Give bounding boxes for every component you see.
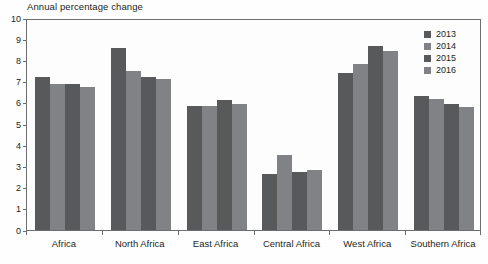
y-axis-tick-label: 7 xyxy=(16,78,23,87)
y-axis-tick-label: 5 xyxy=(16,120,23,129)
bar-west-africa-2014[interactable] xyxy=(353,64,368,230)
bar-group-bars xyxy=(103,20,179,230)
x-axis-label-west-africa: West Africa xyxy=(343,238,391,249)
legend-label-2016: 2016 xyxy=(436,66,456,75)
bar-group xyxy=(255,20,331,230)
bar-southern-africa-2015[interactable] xyxy=(444,104,459,230)
bar-southern-africa-2014[interactable] xyxy=(429,99,444,230)
legend-item-2015[interactable]: 2015 xyxy=(424,54,456,63)
legend-swatch-2016 xyxy=(424,67,431,74)
x-axis-label-north-africa: North Africa xyxy=(115,238,165,249)
bar-group xyxy=(179,20,255,230)
legend-item-2016[interactable]: 2016 xyxy=(424,66,456,75)
bar-southern-africa-2016[interactable] xyxy=(459,107,474,230)
bar-group-bars xyxy=(330,20,406,230)
bar-central-africa-2014[interactable] xyxy=(277,155,292,230)
x-axis-separator xyxy=(329,231,330,235)
bars-layer xyxy=(27,20,480,230)
x-axis-separator xyxy=(178,231,179,235)
legend-label-2015: 2015 xyxy=(436,54,456,63)
legend-item-2014[interactable]: 2014 xyxy=(424,42,456,51)
legend-label-2013: 2013 xyxy=(436,30,456,39)
bar-southern-africa-2013[interactable] xyxy=(414,96,429,230)
bar-central-africa-2013[interactable] xyxy=(262,174,277,230)
y-axis-tick-label: 0 xyxy=(16,226,23,235)
legend-label-2014: 2014 xyxy=(436,42,456,51)
x-axis-separator xyxy=(102,231,103,235)
bar-group-bars xyxy=(27,20,103,230)
bar-north-africa-2016[interactable] xyxy=(156,79,171,230)
bar-east-africa-2016[interactable] xyxy=(232,104,247,230)
bar-north-africa-2013[interactable] xyxy=(111,48,126,230)
plot-area xyxy=(26,19,481,231)
x-axis-label-southern-africa: Southern Africa xyxy=(411,238,476,249)
bar-east-africa-2013[interactable] xyxy=(187,106,202,230)
x-axis-separator xyxy=(405,231,406,235)
bar-group-bars xyxy=(255,20,331,230)
bar-north-africa-2015[interactable] xyxy=(141,77,156,230)
y-axis-tick-label: 9 xyxy=(16,35,23,44)
x-axis-label-central-africa: Central Africa xyxy=(263,238,320,249)
y-axis: 012345678910 xyxy=(0,19,26,231)
bar-north-africa-2014[interactable] xyxy=(126,71,141,230)
y-axis-tick-label: 4 xyxy=(16,141,23,150)
bar-africa-2013[interactable] xyxy=(35,77,50,230)
x-axis-label-africa: Africa xyxy=(52,238,76,249)
bar-central-africa-2016[interactable] xyxy=(307,170,322,230)
chart-container: Annual percentage change 012345678910 Af… xyxy=(0,0,488,264)
bar-central-africa-2015[interactable] xyxy=(292,172,307,230)
y-axis-tick-label: 2 xyxy=(16,184,23,193)
bar-group xyxy=(330,20,406,230)
x-axis-separator xyxy=(26,231,27,235)
bar-west-africa-2015[interactable] xyxy=(368,46,383,230)
bar-east-africa-2015[interactable] xyxy=(217,100,232,230)
bar-west-africa-2016[interactable] xyxy=(383,51,398,230)
bar-africa-2015[interactable] xyxy=(65,84,80,230)
y-axis-tick-label: 3 xyxy=(16,162,23,171)
bar-east-africa-2014[interactable] xyxy=(202,106,217,230)
y-axis-tick-label: 10 xyxy=(11,14,23,23)
x-axis-separator xyxy=(254,231,255,235)
bar-africa-2014[interactable] xyxy=(50,84,65,230)
x-axis: AfricaNorth AfricaEast AfricaCentral Afr… xyxy=(26,231,481,264)
y-axis-tick-label: 1 xyxy=(16,205,23,214)
legend-swatch-2015 xyxy=(424,55,431,62)
bar-group-bars xyxy=(179,20,255,230)
legend: 2013201420152016 xyxy=(424,30,456,75)
x-axis-label-east-africa: East Africa xyxy=(193,238,238,249)
bar-africa-2016[interactable] xyxy=(80,87,95,230)
legend-swatch-2014 xyxy=(424,43,431,50)
y-axis-tick-label: 8 xyxy=(16,56,23,65)
x-axis-separator xyxy=(480,231,481,235)
bar-group xyxy=(27,20,103,230)
legend-item-2013[interactable]: 2013 xyxy=(424,30,456,39)
legend-swatch-2013 xyxy=(424,31,431,38)
bar-west-africa-2013[interactable] xyxy=(338,73,353,230)
chart-title: Annual percentage change xyxy=(27,1,143,12)
bar-group xyxy=(103,20,179,230)
y-axis-tick-label: 6 xyxy=(16,99,23,108)
